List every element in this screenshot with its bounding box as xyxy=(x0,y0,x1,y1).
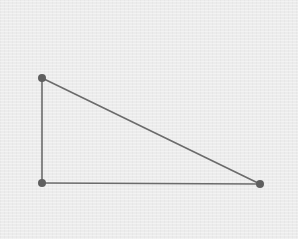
vertex-bottom-right xyxy=(256,180,264,188)
diagram-canvas xyxy=(0,0,298,239)
vertex-bottom-left xyxy=(38,179,46,187)
triangle-edges xyxy=(42,78,260,184)
edge-horizontal-leg xyxy=(42,183,260,184)
triangle-diagram xyxy=(0,0,298,239)
vertex-top-left xyxy=(38,74,46,82)
edge-hypotenuse xyxy=(42,78,260,184)
